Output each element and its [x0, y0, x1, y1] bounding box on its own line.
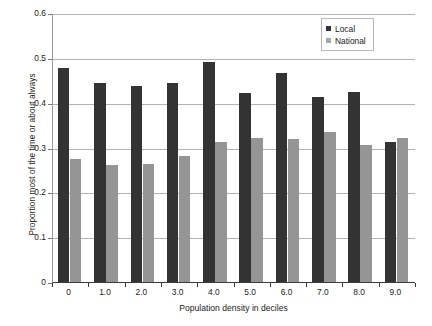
bar-local-8.0 [348, 92, 360, 282]
x-axis-title: Population density in deciles [52, 303, 415, 313]
y-tick-label: 0.1 [6, 232, 46, 242]
y-tick-label: 0.2 [6, 187, 46, 197]
x-tick-label: 4.0 [194, 287, 234, 297]
bar-group [58, 14, 82, 282]
bar-national-8.0 [360, 145, 372, 282]
bar-group [131, 14, 155, 282]
y-tick-mark [48, 59, 52, 60]
y-tick-mark [48, 14, 52, 15]
legend-label-national: National [335, 36, 366, 46]
bar-group [312, 14, 336, 282]
x-tick-mark [415, 283, 416, 287]
bar-local-2.0 [131, 86, 143, 282]
x-tick-label: 1.0 [85, 287, 125, 297]
bar-group [239, 14, 263, 282]
y-tick-mark [48, 193, 52, 194]
bar-national-1.0 [106, 165, 118, 282]
y-tick-label: 0.5 [6, 53, 46, 63]
bar-local-3.0 [167, 83, 179, 283]
y-tick-label: 0.4 [6, 98, 46, 108]
x-tick-label: 9.0 [375, 287, 415, 297]
legend-item-local: Local [326, 23, 366, 34]
x-tick-label: 6.0 [266, 287, 306, 297]
bar-local-7.0 [312, 97, 324, 282]
x-tick-label: 2.0 [121, 287, 161, 297]
bar-group [94, 14, 118, 282]
bar-group [203, 14, 227, 282]
bar-local-0 [58, 68, 70, 282]
y-tick-label: 0.3 [6, 143, 46, 153]
plot-area [52, 14, 415, 283]
legend-swatch-national-icon [326, 38, 331, 43]
bar-group [167, 14, 191, 282]
y-tick-label: 0.6 [6, 8, 46, 18]
bar-national-3.0 [179, 156, 191, 282]
bar-group [276, 14, 300, 282]
y-tick-mark [48, 104, 52, 105]
y-tick-mark [48, 149, 52, 150]
legend-label-local: Local [335, 24, 355, 34]
y-tick-label: 0 [6, 277, 46, 287]
bar-groups [53, 14, 415, 282]
x-tick-label: 5.0 [230, 287, 270, 297]
legend-item-national: National [326, 35, 366, 46]
x-tick-label: 8.0 [339, 287, 379, 297]
x-tick-label: 0 [49, 287, 89, 297]
bar-local-4.0 [203, 62, 215, 282]
bar-national-6.0 [288, 139, 300, 282]
bar-group [348, 14, 372, 282]
y-tick-mark [48, 238, 52, 239]
bar-national-4.0 [215, 142, 227, 282]
bar-national-2.0 [143, 164, 155, 282]
bar-national-9.0 [397, 138, 409, 282]
legend: Local National [321, 18, 374, 51]
x-tick-label: 3.0 [158, 287, 198, 297]
bar-local-6.0 [276, 73, 288, 282]
bar-local-5.0 [239, 93, 251, 282]
bar-national-0 [70, 159, 82, 282]
bar-local-9.0 [385, 142, 397, 282]
bar-local-1.0 [94, 83, 106, 282]
bar-chart: Proportion most of the time or about alw… [0, 0, 432, 326]
bar-group [385, 14, 409, 282]
bar-national-5.0 [251, 138, 263, 282]
bar-national-7.0 [324, 132, 336, 282]
x-tick-label: 7.0 [303, 287, 343, 297]
legend-swatch-local-icon [326, 26, 331, 31]
